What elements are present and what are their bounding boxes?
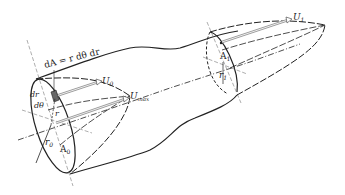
label-A0: A0 xyxy=(59,144,71,155)
tube-bottom-wall xyxy=(70,95,237,174)
stream-tube-diagram: dA = r dθ dr dr dθ r r0 A0 U0 Umax A1 r1… xyxy=(0,0,345,195)
velocity-arrows xyxy=(56,20,288,123)
label-U1: U1 xyxy=(293,12,304,23)
velocity-profile-inner xyxy=(230,25,325,68)
label-r: r xyxy=(55,109,60,118)
label-Umax: Umax xyxy=(130,91,150,102)
label-dtheta: dθ xyxy=(34,101,44,110)
label-dr: dr xyxy=(30,90,40,99)
velocity-profile-inner xyxy=(60,96,130,145)
label-r0: r0 xyxy=(45,137,53,148)
label-U0: U0 xyxy=(102,76,114,87)
arrowhead-icon xyxy=(286,17,292,23)
velocity-profile-inner xyxy=(48,96,130,110)
label-r1: r1 xyxy=(219,70,227,81)
point-marker xyxy=(220,42,222,44)
